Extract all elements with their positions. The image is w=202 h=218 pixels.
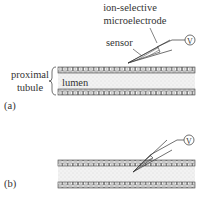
voltmeter-label-b: V [186, 137, 192, 146]
upper-wall-a [58, 67, 195, 73]
microelectrode-a: V [128, 35, 195, 63]
electrode-label-line1: ion-selective [103, 2, 157, 13]
lumen-label: lumen [62, 77, 89, 88]
voltmeter-label-a: V [187, 37, 193, 46]
panel-label-a: (a) [4, 100, 16, 112]
sensor-label: sensor [106, 37, 133, 48]
electrode-leader-line [150, 28, 157, 43]
lower-wall-b [58, 182, 195, 188]
upper-wall-b [58, 160, 195, 166]
tubule-brace [49, 67, 56, 95]
lower-wall-a [58, 89, 195, 95]
diagram: ion-selective microelectrode sensor V lu… [0, 0, 202, 218]
electrode-label-line2: microelectrode [104, 15, 167, 26]
tubule-label-line2: tubule [17, 82, 44, 93]
lumen-b [58, 163, 195, 185]
tubule-b [58, 160, 195, 188]
tubule-label-line1: proximal [11, 69, 49, 80]
electrode-wire-a [157, 40, 185, 47]
panel-label-b: (b) [4, 178, 17, 190]
sensor-leader-line [133, 49, 142, 56]
